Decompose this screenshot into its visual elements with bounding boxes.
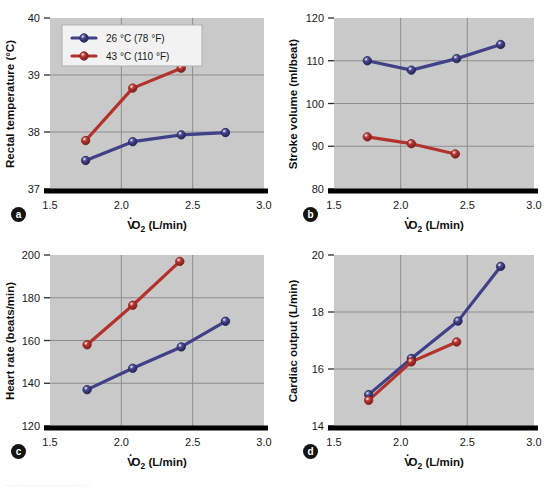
data-point-marker [129,301,137,309]
ytick-label: 16 [312,363,324,375]
data-point-marker [407,358,415,366]
panel-c: 1201401601802001.52.02.53.0V·O2 (L/min)H… [0,233,285,469]
data-point-marker [177,131,185,139]
ytick-label: 14 [312,420,324,432]
data-point-marker [81,136,89,144]
data-point-marker [451,150,459,158]
ytick-label: 110 [306,55,324,67]
xtick-label: 2.5 [185,436,200,448]
xtick-label: 1.5 [326,436,341,448]
panel-d-badge: d [303,444,318,459]
legend-marker-hot [80,52,88,60]
data-point-marker [496,40,504,48]
x-axis-title: V·O2 (L/min) [404,212,464,232]
data-point-marker [407,139,415,147]
panel-c-plot: 1201401601802001.52.02.53.0V·O2 (L/min)H… [0,233,285,469]
panel-d-plot: 141618201.52.02.53.0V·O2 (L/min)Cardiac … [283,233,555,469]
data-point-marker [176,257,184,265]
legend-label: 43 °C (110 °F) [106,51,169,62]
xtick-label: 2.0 [393,436,408,448]
data-point-marker [129,84,137,92]
x-axis-title: V·O2 (L/min) [127,449,187,469]
panel-b: 80901001101201.52.02.53.0V·O2 (L/min)Str… [283,0,555,232]
data-point-marker [364,396,372,404]
data-point-marker [407,66,415,74]
data-point-marker [177,343,185,351]
xtick-label: 2.5 [460,436,475,448]
xtick-label: 2.0 [393,199,408,211]
xtick-label: 1.5 [326,199,341,211]
ytick-label: 18 [312,306,324,318]
y-axis-title: Cardiac output (L/min) [287,280,299,403]
ytick-label: 80 [312,183,324,195]
xtick-label: 2.5 [185,199,200,211]
ytick-label: 90 [312,140,324,152]
data-point-marker [83,385,91,393]
panel-d: 141618201.52.02.53.0V·O2 (L/min)Cardiac … [283,233,555,469]
xtick-label: 3.0 [256,436,271,448]
xtick-label: 3.0 [526,436,541,448]
legend: 26 °C (78 °F)43 °C (110 °F) [62,25,202,66]
ytick-label: 140 [22,377,40,389]
figure-caption: ............ ... ......... ..... ... ...… [4,481,551,487]
data-point-marker [454,317,462,325]
x-axis-title: V·O2 (L/min) [127,212,187,232]
data-point-marker [452,338,460,346]
data-point-marker [496,262,504,270]
ytick-label: 37 [28,183,40,195]
panel-c-badge: c [11,444,26,459]
ytick-label: 40 [28,12,40,24]
data-point-marker [83,341,91,349]
ytick-label: 200 [22,249,40,261]
panel-b-plot: 80901001101201.52.02.53.0V·O2 (L/min)Str… [283,0,555,232]
data-point-marker [221,128,229,136]
legend-label: 26 °C (78 °F) [106,33,165,44]
panel-b-badge: b [303,207,318,222]
data-point-marker [452,54,460,62]
panel-a-badge: a [11,207,26,222]
ytick-label: 100 [306,98,324,110]
xtick-label: 1.5 [42,436,57,448]
ytick-label: 160 [22,335,40,347]
y-axis-title: Stroke volume (ml/beat) [287,39,299,170]
y-axis-title: Heart rate (beats/min) [4,282,16,400]
figure-root: 373839401.52.02.53.0V·O2 (L/min)Rectal t… [0,0,555,491]
xtick-label: 1.5 [42,199,57,211]
xtick-label: 3.0 [526,199,541,211]
panel-a: 373839401.52.02.53.0V·O2 (L/min)Rectal t… [0,0,285,232]
ytick-label: 120 [22,420,40,432]
xtick-label: 2.0 [114,199,129,211]
ytick-label: 180 [22,292,40,304]
data-point-marker [363,133,371,141]
data-point-marker [81,156,89,164]
data-point-marker [363,57,371,65]
xtick-label: 2.0 [114,436,129,448]
ytick-label: 120 [306,12,324,24]
ytick-label: 38 [28,126,40,138]
xtick-label: 2.5 [460,199,475,211]
legend-marker-cool [80,34,88,42]
ytick-label: 39 [28,69,40,81]
xtick-label: 3.0 [256,199,271,211]
ytick-label: 20 [312,249,324,261]
data-point-marker [129,364,137,372]
panel-a-plot: 373839401.52.02.53.0V·O2 (L/min)Rectal t… [0,0,285,232]
x-axis-title: V·O2 (L/min) [404,449,464,469]
data-point-marker [221,317,229,325]
y-axis-title: Rectal temperature (°C) [4,40,16,168]
data-point-marker [129,137,137,145]
